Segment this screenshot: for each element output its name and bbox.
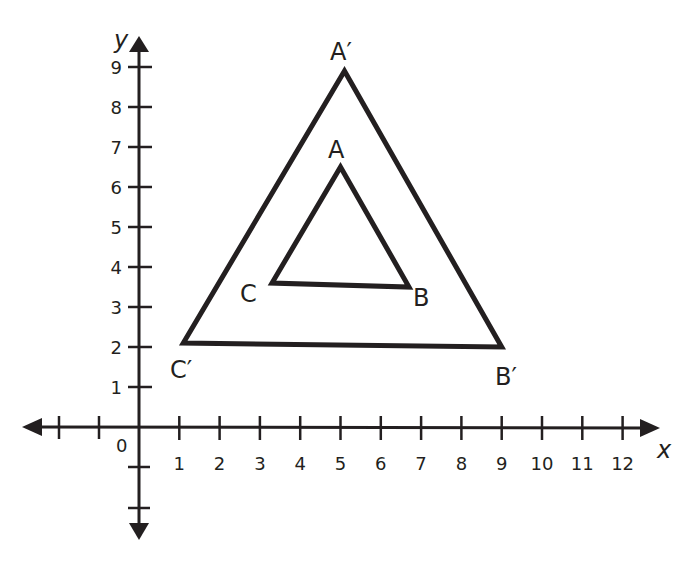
x-tick-label: 10	[531, 453, 554, 474]
y-tick-label: 4	[111, 257, 122, 278]
x-tick-label: 8	[456, 453, 467, 474]
x-tick-label: 6	[375, 453, 386, 474]
x-tick-label: 3	[254, 453, 265, 474]
x-tick-label: 7	[415, 453, 426, 474]
vertex-label-c-prime: C′	[170, 356, 192, 384]
y-tick-label: 8	[111, 97, 122, 118]
triangle-a-prime-b-prime-c-prime	[183, 71, 501, 347]
x-axis-label: x	[656, 436, 672, 464]
y-axis-up-arrow-icon	[129, 36, 149, 52]
y-axis-down-arrow-icon	[129, 523, 149, 540]
x-tick-label: 9	[496, 453, 507, 474]
coordinate-plane: 123456789101112 123456789 x y 0 A′ B′ C′…	[0, 0, 684, 561]
x-tick-label: 2	[214, 453, 225, 474]
x-tick-label: 4	[294, 453, 305, 474]
x-tick-label: 1	[174, 453, 185, 474]
y-tick-label: 3	[111, 297, 122, 318]
y-tick-label: 7	[111, 137, 122, 158]
vertex-label-b-prime: B′	[495, 363, 517, 391]
y-tick-label: 6	[111, 177, 122, 198]
x-tick-label: 11	[571, 453, 594, 474]
vertex-label-b: B	[413, 284, 429, 312]
x-axis-left-arrow-icon	[22, 418, 42, 436]
x-tick-label: 5	[335, 453, 346, 474]
x-axis-right-arrow-icon	[640, 419, 660, 437]
y-tick-label: 1	[111, 377, 122, 398]
y-axis: 123456789	[111, 36, 152, 540]
y-tick-label: 2	[111, 337, 122, 358]
vertex-label-a: A	[328, 136, 345, 164]
triangle-abc	[272, 167, 409, 287]
y-tick-label: 9	[111, 57, 122, 78]
x-tick-label: 12	[611, 453, 634, 474]
y-tick-label: 5	[111, 217, 122, 238]
origin-label: 0	[116, 435, 127, 456]
y-axis-label: y	[113, 26, 129, 54]
vertex-label-a-prime: A′	[330, 38, 352, 66]
vertex-label-c: C	[240, 280, 257, 308]
